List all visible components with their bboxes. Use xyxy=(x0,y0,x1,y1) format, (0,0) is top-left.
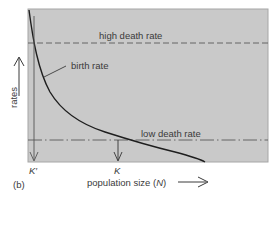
x-axis-label-text: population size ( xyxy=(87,177,156,188)
k-prime-label: K′ xyxy=(29,166,37,176)
x-axis-label: population size (N) xyxy=(87,178,166,188)
birth-rate-label: birth rate xyxy=(71,61,109,71)
panel-label: (b) xyxy=(13,180,25,190)
y-axis-label: rates xyxy=(8,87,19,108)
low-death-rate-label: low death rate xyxy=(141,129,201,139)
high-death-rate-label: high death rate xyxy=(99,31,162,41)
k-label: K xyxy=(114,166,120,176)
x-axis-label-close: ) xyxy=(163,177,166,188)
